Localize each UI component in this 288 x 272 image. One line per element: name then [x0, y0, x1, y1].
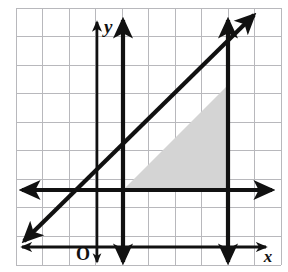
origin-label: O: [76, 244, 90, 264]
coordinate-plane-svg: y x O: [0, 0, 288, 272]
y-axis-label: y: [102, 16, 113, 37]
coordinate-figure: y x O: [0, 0, 288, 272]
figure-background: [0, 0, 288, 272]
x-axis-label: x: [263, 247, 273, 266]
